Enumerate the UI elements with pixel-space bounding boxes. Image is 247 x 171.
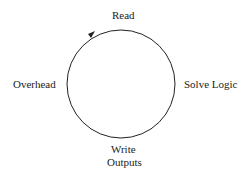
stage-overhead: Overhead [13, 78, 56, 90]
stage-read: Read [112, 9, 135, 21]
stage-write-line1: Write [111, 143, 136, 155]
cycle-circle [67, 30, 175, 138]
stage-solve-logic: Solve Logic [184, 78, 237, 90]
stage-write-line2: Outputs [107, 156, 142, 168]
